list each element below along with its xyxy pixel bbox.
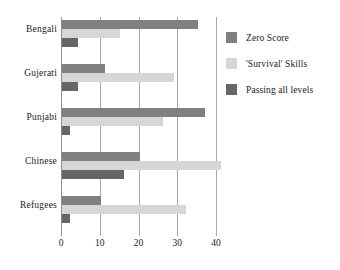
y-axis-tick-label: Bengali (0, 24, 57, 34)
x-axis-tick-label: 30 (165, 238, 189, 248)
legend-swatch-icon (226, 58, 237, 69)
bar-gujerati-zero-score (62, 64, 105, 73)
legend-label: Passing all levels (246, 85, 313, 95)
x-axis-tick-labels: 0 10 20 30 40 (61, 238, 221, 254)
legend-label: 'Survival' Skills (246, 59, 307, 69)
x-axis-tick-label: 10 (88, 238, 112, 248)
x-axis-tick-label: 0 (49, 238, 73, 248)
bar-bengali-survival-skills (62, 29, 120, 38)
legend-item-survival-skills: 'Survival' Skills (226, 57, 338, 70)
bar-chinese-survival-skills (62, 161, 221, 170)
bar-chart: Bengali Gujerati Punjabi Chinese Refugee… (0, 0, 340, 270)
y-axis-tick-label: Punjabi (0, 112, 57, 122)
bar-refugees-passing-all-levels (62, 214, 70, 223)
gridline-30 (177, 17, 178, 236)
bar-refugees-survival-skills (62, 205, 186, 214)
bar-gujerati-passing-all-levels (62, 82, 78, 91)
y-axis-tick-label: Refugees (0, 200, 57, 210)
bar-chinese-passing-all-levels (62, 170, 124, 179)
legend-swatch-icon (226, 32, 237, 43)
y-axis-tick-labels: Bengali Gujerati Punjabi Chinese Refugee… (0, 17, 57, 236)
gridline-20 (139, 17, 140, 236)
bar-chinese-zero-score (62, 152, 140, 161)
bar-punjabi-zero-score (62, 108, 205, 117)
legend-item-zero-score: Zero Score (226, 31, 338, 44)
bar-punjabi-survival-skills (62, 117, 163, 126)
y-axis-tick-label: Chinese (0, 156, 57, 166)
legend-item-passing-all-levels: Passing all levels (226, 83, 338, 96)
y-axis-tick-label: Gujerati (0, 68, 57, 78)
legend-label: Zero Score (246, 33, 289, 43)
bar-bengali-passing-all-levels (62, 38, 78, 47)
bar-punjabi-passing-all-levels (62, 126, 70, 135)
legend: Zero Score 'Survival' Skills Passing all… (226, 31, 338, 109)
x-axis-tick-label: 40 (204, 238, 228, 248)
bar-gujerati-survival-skills (62, 73, 174, 82)
legend-swatch-icon (226, 84, 237, 95)
x-axis-tick-label: 20 (127, 238, 151, 248)
gridline-40 (216, 17, 217, 236)
plot-area (61, 17, 216, 236)
bar-refugees-zero-score (62, 196, 101, 205)
bar-bengali-zero-score (62, 20, 198, 29)
